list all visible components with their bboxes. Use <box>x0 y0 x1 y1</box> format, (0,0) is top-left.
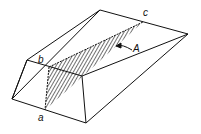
prism-drawing <box>0 0 201 134</box>
label-A: A <box>133 44 140 54</box>
prism-diagram: b a c A <box>0 0 201 134</box>
hatched-section-A <box>45 22 143 110</box>
label-a: a <box>38 113 44 123</box>
label-b: b <box>38 55 44 65</box>
prism-edges <box>12 10 188 123</box>
label-c: c <box>143 8 148 18</box>
